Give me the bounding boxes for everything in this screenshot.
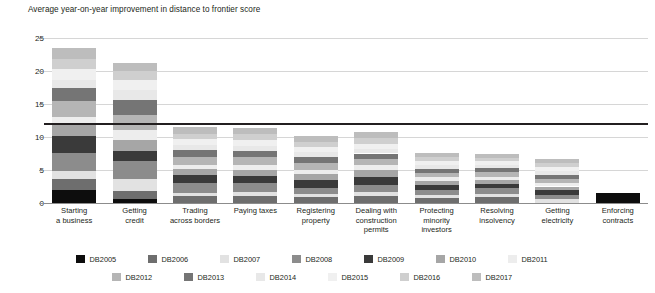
bar-segment [535, 167, 579, 171]
bar-segment [52, 69, 96, 80]
bar-segment [415, 177, 459, 180]
bar-segment [535, 199, 579, 203]
x-axis-label-line: across borders [155, 216, 235, 226]
bar-segment [113, 140, 157, 151]
bar-segment [233, 183, 277, 192]
legend-swatch-icon [220, 255, 229, 263]
legend-item-db2010[interactable]: DB2010 [436, 255, 508, 264]
legend-swatch-icon [472, 273, 481, 281]
gridline-0 [44, 203, 648, 204]
bar-segment [475, 180, 519, 184]
bar-segment [294, 136, 338, 142]
bar-segment [233, 170, 277, 176]
legend-swatch-icon [112, 273, 121, 281]
bar-column[interactable] [596, 38, 640, 203]
bar-column[interactable] [173, 38, 217, 203]
bar-segment [535, 187, 579, 191]
bar-segment [233, 176, 277, 183]
legend-item-db2014[interactable]: DB2014 [256, 273, 328, 282]
bar-segment [415, 169, 459, 173]
legend-swatch-icon [436, 255, 445, 263]
bar-segment [354, 196, 398, 203]
legend-label: DB2014 [270, 273, 297, 282]
bar-segment [173, 127, 217, 134]
legend-swatch-icon [184, 273, 193, 281]
bar-column[interactable] [233, 38, 277, 203]
bar-segment [354, 170, 398, 177]
bar-segment [415, 153, 459, 158]
legend-item-db2009[interactable]: DB2009 [364, 255, 436, 264]
legend-swatch-icon [256, 273, 265, 281]
bar-segment [354, 132, 398, 138]
legend-label: DB2005 [90, 255, 117, 264]
bar-segment [535, 159, 579, 164]
bar-segment [233, 140, 277, 146]
legend-label: DB2012 [126, 273, 153, 282]
chart-legend: DB2005DB2006DB2007DB2008DB2009DB2010DB20… [0, 250, 655, 286]
y-tick-mark-20 [39, 71, 43, 72]
bar-segment [415, 165, 459, 168]
legend-item-db2011[interactable]: DB2011 [508, 255, 580, 264]
y-tick-mark-0 [39, 203, 43, 204]
bar-segment [294, 180, 338, 188]
x-axis-label-line: contracts [578, 216, 655, 226]
legend-item-db2007[interactable]: DB2007 [220, 255, 292, 264]
bar-segment [173, 139, 217, 145]
legend-item-db2006[interactable]: DB2006 [148, 255, 220, 264]
x-axis-label: Enforcingcontracts [578, 206, 655, 225]
legend-item-db2005[interactable]: DB2005 [76, 255, 148, 264]
bar-segment [173, 134, 217, 139]
bar-segment [475, 172, 519, 177]
y-tick-mark-5 [39, 170, 43, 171]
bar-segment [233, 151, 277, 158]
bar-column[interactable] [294, 38, 338, 203]
y-tick-mark-15 [39, 104, 43, 105]
bar-segment [475, 168, 519, 172]
bar-column[interactable] [354, 38, 398, 203]
bar-segment [354, 165, 398, 170]
bar-segment [535, 171, 579, 174]
bar-segment [354, 192, 398, 196]
bar-segment [475, 177, 519, 180]
bar-segment [535, 175, 579, 179]
bar-segment [475, 161, 519, 164]
bar-segment [52, 179, 96, 190]
legend-swatch-icon [328, 273, 337, 281]
bar-column[interactable] [113, 38, 157, 203]
bar-segment [294, 157, 338, 163]
bar-column[interactable] [475, 38, 519, 203]
bar-segment [415, 195, 459, 198]
legend-swatch-icon [400, 273, 409, 281]
bar-segment [415, 161, 459, 165]
legend-item-db2008[interactable]: DB2008 [292, 255, 364, 264]
plot-area [44, 38, 648, 203]
legend-label: DB2008 [306, 255, 333, 264]
bar-segment [173, 145, 217, 150]
bar-segment [294, 174, 338, 180]
bar-column[interactable] [52, 38, 96, 203]
bar-segment [415, 198, 459, 203]
bar-segment [535, 183, 579, 186]
bar-column[interactable] [415, 38, 459, 203]
bar-column[interactable] [535, 38, 579, 203]
bar-segment [173, 150, 217, 157]
legend-row: DB2012DB2013DB2014DB2015DB2016DB2017 [0, 268, 655, 286]
bar-segment [113, 191, 157, 199]
bar-segment [113, 63, 157, 71]
legend-item-db2016[interactable]: DB2016 [400, 273, 472, 282]
legend-item-db2015[interactable]: DB2015 [328, 273, 400, 282]
legend-label: DB2006 [162, 255, 189, 264]
x-axis-labels: Startinga businessGettingcreditTradingac… [44, 206, 648, 248]
legend-row: DB2005DB2006DB2007DB2008DB2009DB2010DB20… [0, 250, 655, 268]
bar-segment [173, 183, 217, 194]
legend-item-db2017[interactable]: DB2017 [472, 273, 544, 282]
legend-item-db2012[interactable]: DB2012 [112, 273, 184, 282]
bar-segment [535, 163, 579, 167]
bar-segment [354, 177, 398, 186]
y-tick-mark-10 [39, 137, 43, 138]
bar-segment [535, 179, 579, 184]
bar-segment [294, 147, 338, 152]
bar-segment [113, 130, 157, 139]
legend-label: DB2016 [414, 273, 441, 282]
legend-item-db2013[interactable]: DB2013 [184, 273, 256, 282]
